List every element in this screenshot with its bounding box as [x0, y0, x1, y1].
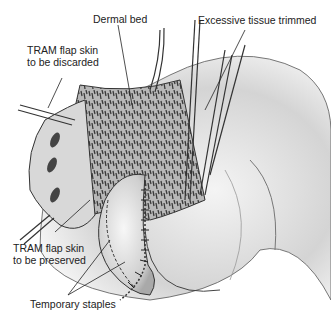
label-excessive-tissue: Excessive tissue trimmed	[198, 14, 316, 26]
label-flap-preserved: TRAM flap skin to be preserved	[13, 242, 86, 266]
discarded-flap	[29, 100, 95, 228]
label-flap-discarded: TRAM flap skin to be discarded	[27, 44, 99, 68]
tram-flap-illustration: Dermal bed Excessive tissue trimmed TRAM…	[0, 0, 331, 323]
label-dermal-bed: Dermal bed	[93, 13, 147, 25]
label-temporary-staples: Temporary staples	[30, 298, 116, 310]
